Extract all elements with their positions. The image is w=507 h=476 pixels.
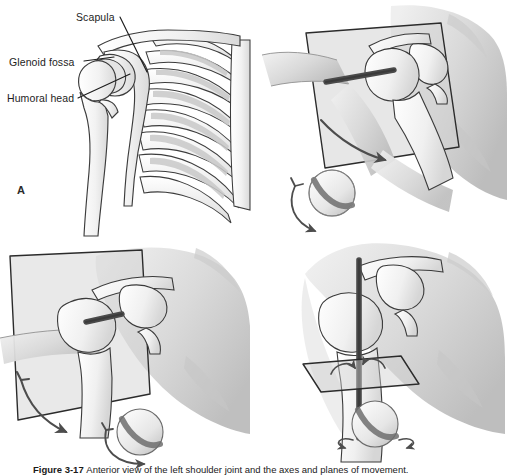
panel-c: C — [0, 238, 253, 464]
figure-illustration: Scapula Glenoid fossa Humoral head A — [0, 0, 507, 476]
axis-sphere-c — [117, 409, 163, 455]
panel-a-artwork — [0, 0, 253, 238]
figure-caption-text: Anterior view of the left shoulder joint… — [86, 464, 408, 475]
thorax-ribcage — [139, 34, 244, 223]
sternum — [231, 40, 250, 210]
label-humoral-head: Humoral head — [7, 93, 74, 104]
label-scapula: Scapula — [76, 12, 115, 23]
humerus-bone — [79, 61, 118, 236]
panel-c-artwork — [0, 238, 253, 464]
figure-caption: Figure 3-17 Anterior view of the left sh… — [33, 463, 501, 476]
panel-d-artwork — [253, 238, 507, 464]
axis-sphere-b — [309, 170, 355, 216]
axis-sphere-d — [352, 401, 398, 447]
panel-d: D — [253, 238, 507, 464]
label-glenoid-fossa: Glenoid fossa — [9, 57, 75, 68]
panel-b-artwork — [253, 0, 507, 238]
figure-caption-label: Figure 3-17 — [33, 464, 84, 475]
panel-a: Scapula Glenoid fossa Humoral head A — [0, 0, 253, 238]
panel-letter-a: A — [17, 185, 25, 196]
panel-b: B — [253, 0, 507, 238]
